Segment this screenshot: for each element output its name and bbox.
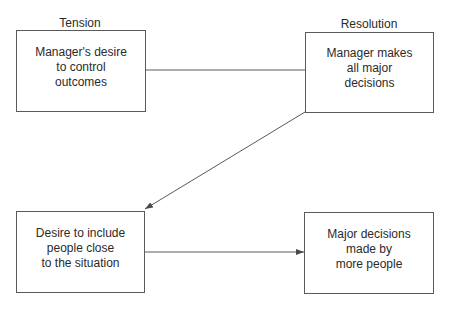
node-text: Manager makes all major decisions <box>326 46 412 91</box>
node-text: Desire to include people close to the si… <box>36 226 125 271</box>
node-text: Manager's desire to control outcomes <box>35 45 127 90</box>
node-manager-decides: Manager makes all major decisions <box>305 32 434 113</box>
node-manager-desire: Manager's desire to control outcomes <box>16 30 146 112</box>
node-desire-include: Desire to include people close to the si… <box>16 211 145 293</box>
edge-decides-to-include <box>145 112 305 209</box>
node-decisions-more-people: Major decisions made by more people <box>304 212 434 294</box>
node-text: Major decisions made by more people <box>327 227 410 272</box>
column-label-tension: Tension <box>20 16 140 30</box>
column-label-resolution: Resolution <box>309 17 429 31</box>
